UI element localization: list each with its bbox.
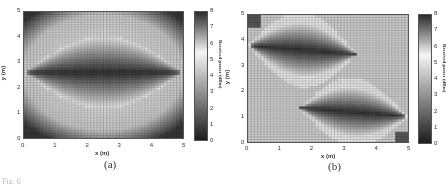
cb-tick-label: 0 — [210, 137, 213, 143]
heatmap-b — [247, 14, 409, 143]
heatmap-b-canvas — [248, 15, 408, 142]
x-tick-label: 4 — [150, 142, 153, 148]
cb-tick-label: 0 — [434, 140, 437, 146]
heatmap-a-canvas — [24, 12, 183, 138]
cb-tick-label: 5 — [210, 56, 213, 62]
x-tick-label: 1 — [53, 142, 56, 148]
cb-tick-label: 7 — [210, 23, 213, 29]
y-tick-label: 4 — [17, 33, 20, 39]
cb-tick-label: 5 — [434, 59, 437, 65]
y-tick-label: 1 — [17, 109, 20, 115]
x-axis-label-a: x (m) — [95, 150, 109, 156]
cb-tick-label: 8 — [434, 10, 437, 16]
x-tick-label: 3 — [118, 142, 121, 148]
colorbar-b-canvas — [419, 15, 431, 143]
x-tick-label: 2 — [85, 142, 88, 148]
y-tick-label: 0 — [241, 139, 244, 145]
y-axis-label-b: y (m) — [224, 70, 230, 84]
cb-tick-label: 2 — [210, 105, 213, 111]
x-tick-label: 2 — [310, 145, 313, 151]
x-tick-label: 5 — [182, 142, 185, 148]
colorbar-a-canvas — [195, 12, 207, 140]
cb-tick-label: 1 — [434, 124, 437, 130]
cb-tick-label: 6 — [434, 43, 437, 49]
x-axis-label-b: x (m) — [321, 153, 335, 159]
cb-tick-label: 6 — [210, 40, 213, 46]
x-tick-label: 3 — [342, 145, 345, 151]
y-axis-label-a: y (m) — [0, 66, 6, 80]
cb-tick-label: 8 — [210, 7, 213, 13]
colorbar-label-a: Received power (dBm) — [218, 40, 223, 89]
y-tick-label: 1 — [241, 113, 244, 119]
y-tick-label: 3 — [17, 58, 20, 64]
colorbar-b — [418, 14, 432, 144]
cb-tick-label: 3 — [434, 91, 437, 97]
y-tick-label: 4 — [241, 36, 244, 42]
heatmap-a — [23, 11, 184, 139]
y-tick-label: 0 — [17, 135, 20, 141]
cb-tick-label: 1 — [210, 121, 213, 127]
y-tick-label: 5 — [17, 7, 20, 13]
caption-a: (a) — [104, 158, 116, 170]
cb-tick-label: 4 — [434, 75, 437, 81]
x-tick-label: 0 — [245, 145, 248, 151]
caption-b: (b) — [328, 160, 341, 172]
panel-b: 012345 012345 x (m) y (m) 012345678 Rece… — [224, 0, 448, 184]
y-tick-label: 3 — [241, 62, 244, 68]
panel-a: 012345 012345 x (m) y (m) 012345678 Rece… — [0, 0, 224, 184]
y-tick-label: 2 — [17, 84, 20, 90]
x-tick-label: 0 — [21, 142, 24, 148]
y-tick-label: 5 — [241, 10, 244, 16]
colorbar-a — [194, 11, 208, 141]
y-tick-label: 2 — [241, 87, 244, 93]
cb-tick-label: 2 — [434, 108, 437, 114]
cb-tick-label: 4 — [210, 72, 213, 78]
x-tick-label: 4 — [375, 145, 378, 151]
cb-tick-label: 7 — [434, 26, 437, 32]
x-tick-label: 5 — [407, 145, 410, 151]
x-tick-label: 1 — [277, 145, 280, 151]
cb-tick-label: 3 — [210, 88, 213, 94]
colorbar-label-b: Received power (dBm) — [442, 44, 447, 93]
figure-caption-partial: Fig. 6 — [2, 177, 21, 184]
